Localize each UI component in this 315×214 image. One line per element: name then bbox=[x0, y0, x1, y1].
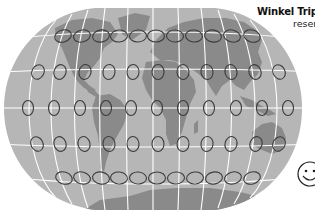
map-figure: Winkel Trip reser bbox=[0, 0, 315, 214]
map-subtitle: reser bbox=[293, 18, 315, 29]
map-title: Winkel Trip bbox=[257, 6, 315, 17]
smiley-face-icon bbox=[296, 160, 315, 190]
winkel-tripel-map bbox=[0, 0, 315, 214]
